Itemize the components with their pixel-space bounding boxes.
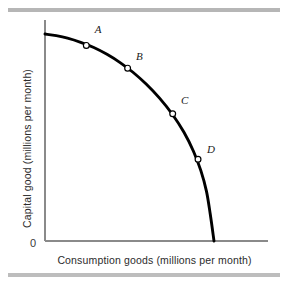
ppf-chart-plot — [0, 0, 287, 282]
ppf-point-marker-b[interactable] — [125, 65, 131, 71]
ppf-point-label-d: D — [207, 143, 215, 155]
ppf-point-label-a: A — [95, 23, 102, 35]
ppf-point-label-c: C — [181, 94, 188, 106]
ppf-point-marker-c[interactable] — [170, 111, 176, 117]
ppf-point-marker-d[interactable] — [195, 156, 201, 162]
figure-canvas: ABCD 0 Consumption goods (millions per m… — [0, 0, 287, 282]
ppf-point-marker-a[interactable] — [83, 42, 89, 48]
x-axis-label: Consumption goods (millions per month) — [0, 254, 287, 266]
ppf-curve — [45, 34, 214, 241]
y-axis-label: Capital good (millions per month) — [21, 8, 35, 228]
ppf-point-label-b: B — [136, 50, 143, 62]
origin-label: 0 — [30, 237, 36, 249]
